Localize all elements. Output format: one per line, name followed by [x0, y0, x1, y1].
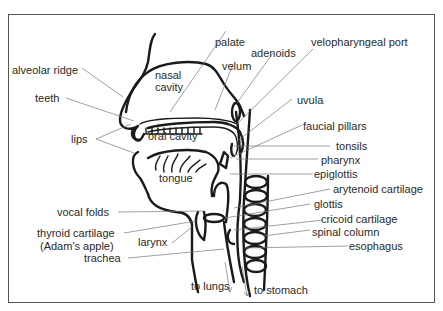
- label-uvula: uvula: [297, 94, 323, 106]
- label-trachea: trachea: [84, 252, 121, 264]
- label-arytenoid-cartilage: arytenoid cartilage: [333, 183, 423, 195]
- label-to-lungs: to lungs: [191, 280, 230, 292]
- tongue-muscle-lines: [155, 154, 206, 172]
- label-velopharyngeal-port: velopharyngeal port: [311, 36, 408, 48]
- label-epiglottis: epiglottis: [314, 168, 357, 180]
- vertebrae: [244, 176, 267, 272]
- cricoid: [228, 230, 234, 244]
- label-glottis: glottis: [314, 198, 343, 210]
- label-tonsils: tonsils: [336, 140, 367, 152]
- thyroid-cartilage: [196, 212, 206, 240]
- face-profile: [120, 34, 155, 141]
- label-thyroid-cartilage-line2: (Adam's apple): [40, 240, 114, 252]
- label-cricoid-cartilage: cricoid cartilage: [321, 213, 397, 225]
- label-vocal-folds: vocal folds: [57, 206, 109, 218]
- vocal-folds: [204, 214, 224, 222]
- label-pharynx: pharynx: [321, 154, 360, 166]
- label-nasal-cavity-line2: cavity: [155, 81, 183, 93]
- label-alveolar-ridge: alveolar ridge: [12, 64, 78, 76]
- lower-lip: [133, 152, 148, 194]
- label-spinal-column: spinal column: [312, 226, 379, 238]
- label-palate: palate: [215, 36, 245, 48]
- label-oral-cavity: oral cavity: [148, 130, 198, 142]
- label-faucial-pillars: faucial pillars: [303, 120, 367, 132]
- faucial-pillars: [220, 152, 228, 168]
- label-esophagus: esophagus: [349, 240, 403, 252]
- label-adenoids: adenoids: [251, 47, 296, 59]
- label-to-stomach: to stomach: [254, 284, 308, 296]
- label-teeth: teeth: [35, 92, 59, 104]
- label-tongue: tongue: [159, 172, 193, 184]
- label-velum: velum: [222, 60, 251, 72]
- label-nasal-cavity-line1: nasal: [155, 69, 181, 81]
- label-thyroid-cartilage-line1: thyroid cartilage: [37, 227, 115, 239]
- uvula: [231, 144, 234, 156]
- label-larynx: larynx: [138, 236, 167, 248]
- label-lips: lips: [71, 133, 88, 145]
